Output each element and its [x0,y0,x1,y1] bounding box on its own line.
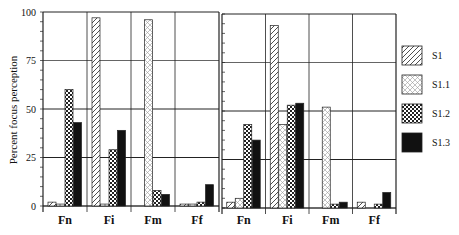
y-tick-label: 25 [26,152,36,163]
x-tick-label: Ff [191,213,203,227]
bar-S1-2-Fn [65,90,73,206]
bar-S1-Fi [92,18,100,206]
bar-S1-3-Fn [74,123,82,206]
bar-S1-Fn [227,202,235,208]
bar-S1-3-Fi [296,103,304,208]
plot-area: FnFiFmFf0255075100FnFiFmFf [21,7,396,228]
x-tick-label: Fm [144,213,161,227]
panel-right: FnFiFmFf [222,14,396,227]
legend-item-S1-1: S1.1 [402,75,450,94]
bar-S1-1-Fn [57,204,65,206]
legend-label: S1.3 [432,137,450,148]
panel-left: FnFiFmFf0255075100 [21,7,219,228]
bar-S1-1-Fi [101,204,109,206]
x-tick-label: Fn [237,213,251,227]
y-tick-label: 75 [26,55,36,66]
bar-S1-2-Fn [244,125,252,208]
legend: S1S1.1S1.2S1.3 [402,46,450,152]
legend-item-S1-2: S1.2 [402,104,450,123]
bar-S1-1-Fm [322,107,330,208]
y-tick-label: 0 [31,201,36,212]
legend-label: S1.2 [432,108,450,119]
y-axis-label: Percent focus perception [7,55,19,164]
legend-swatch [402,46,422,65]
x-tick-label: Fi [104,213,115,227]
bar-S1-2-Ff [374,204,382,208]
bar-S1-Ff [357,202,365,208]
legend-swatch [402,75,422,94]
bar-S1-Ff [180,204,188,206]
y-tick-label: 100 [21,7,36,18]
bar-S1-1-Fi [279,125,287,208]
x-tick-label: Ff [369,213,381,227]
bar-S1-1-Fm [145,20,153,206]
legend-swatch [402,133,422,152]
x-tick-label: Fi [282,213,293,227]
bar-S1-2-Ff [197,202,205,206]
bar-S1-2-Fi [287,105,295,208]
bar-S1-3-Ff [383,192,391,208]
x-tick-label: Fn [58,213,72,227]
legend-label: S1 [432,50,443,61]
bar-S1-3-Fm [162,194,170,206]
bar-S1-3-Fi [118,130,126,206]
bar-S1-Fi [270,26,278,208]
bar-S1-3-Fn [252,140,260,208]
legend-item-S1: S1 [402,46,443,65]
bar-S1-2-Fm [153,190,161,206]
bar-S1-2-Fi [109,150,117,206]
bar-S1-3-Ff [206,185,214,206]
bar-S1-Fn [48,202,56,206]
bar-S1-2-Fm [331,204,339,208]
bar-S1-1-Fn [235,198,243,208]
legend-label: S1.1 [432,79,450,90]
y-tick-label: 50 [26,104,36,115]
x-tick-label: Fm [322,213,339,227]
focus-perception-chart: FnFiFmFf0255075100FnFiFmFf S1S1.1S1.2S1.… [0,0,459,235]
bar-S1-3-Fm [339,202,347,208]
legend-item-S1-3: S1.3 [402,133,450,152]
bar-S1-1-Ff [189,204,197,206]
legend-swatch [402,104,422,123]
